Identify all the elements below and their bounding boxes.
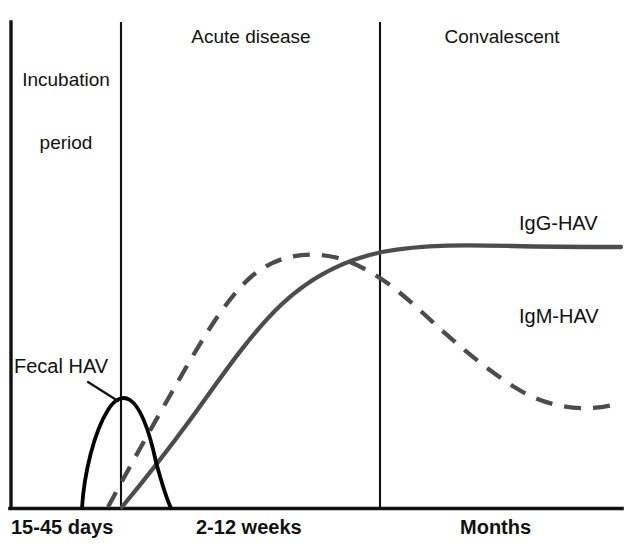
series-curve-igm-hav (108, 255, 613, 507)
x-axis-label-acute-duration: 2-12 weeks (196, 516, 302, 538)
x-axis-label-convalescent-duration: Months (460, 516, 531, 538)
series-label-igg-hav: IgG-HAV (519, 212, 598, 234)
series-label-igm-hav: IgM-HAV (519, 305, 599, 327)
phase-label-incubation-line2: period (14, 132, 118, 153)
hepatitis-a-serology-chart: Incubation period Acute disease Convales… (0, 0, 628, 544)
phase-label-incubation-line1: Incubation (14, 69, 118, 90)
phase-label-convalescent: Convalescent (386, 26, 618, 47)
phase-label-incubation: Incubation period (14, 26, 118, 196)
annotation-leader-fecal-hav (88, 382, 118, 401)
series-curve-fecal-hav (82, 398, 171, 508)
x-axis-label-incubation-duration: 15-45 days (11, 516, 113, 538)
annotation-label-fecal-hav: Fecal HAV (14, 355, 108, 378)
series-curve-igg-hav (122, 245, 621, 507)
phase-label-acute-disease: Acute disease (128, 26, 374, 47)
